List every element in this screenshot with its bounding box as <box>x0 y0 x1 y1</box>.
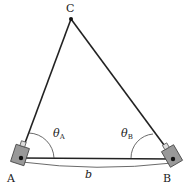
diagram-canvas <box>0 0 189 193</box>
baseline-symbol: b <box>85 168 92 181</box>
triangulation-diagram: C A B b θA θB <box>0 0 189 193</box>
label-theta-A: θA <box>53 128 65 141</box>
point-A <box>19 156 23 160</box>
baseline-line <box>21 158 173 159</box>
label-A: A <box>7 173 15 184</box>
theta-B-symbol: θ <box>121 127 128 140</box>
device-B-icon <box>159 140 183 167</box>
angle-arc-B <box>131 134 153 158</box>
point-C <box>69 17 73 21</box>
label-C: C <box>66 3 74 14</box>
device-A-icon <box>11 140 31 166</box>
angle-arc-A <box>29 133 54 158</box>
theta-A-symbol: θ <box>53 127 60 140</box>
label-B: B <box>163 173 171 184</box>
side-AC <box>25 19 71 143</box>
label-b: b <box>85 169 92 180</box>
label-theta-B: θB <box>121 128 133 141</box>
baseline-bracket <box>22 162 172 167</box>
point-B <box>171 157 175 161</box>
theta-A-subscript: A <box>60 133 65 141</box>
side-BC <box>71 19 164 145</box>
theta-B-subscript: B <box>128 133 133 141</box>
